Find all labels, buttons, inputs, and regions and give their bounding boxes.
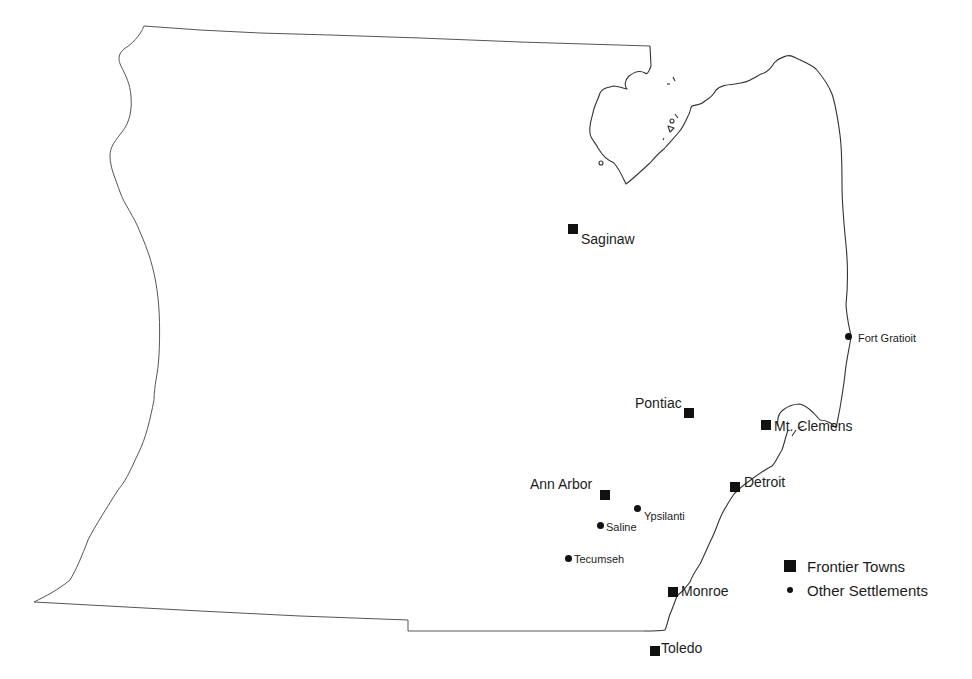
legend-item-frontier-towns: Frontier Towns xyxy=(782,556,905,576)
settlement-marker xyxy=(634,505,641,512)
town-label: Ann Arbor xyxy=(530,477,592,491)
settlement-marker xyxy=(565,555,572,562)
frontier-town-marker xyxy=(730,482,740,492)
legend-label: Other Settlements xyxy=(807,582,928,599)
frontier-town-marker xyxy=(600,490,610,500)
square-marker-icon xyxy=(784,560,796,572)
legend-item-other-settlements: Other Settlements xyxy=(782,580,928,600)
island-mark xyxy=(599,161,603,165)
frontier-town-marker xyxy=(568,224,578,234)
settlement-label: Fort Gratioit xyxy=(858,333,916,344)
island-mark xyxy=(668,126,674,132)
island-mark xyxy=(670,119,674,123)
territory-boundary xyxy=(34,26,650,631)
town-label: Monroe xyxy=(681,584,728,598)
legend-label: Frontier Towns xyxy=(807,558,905,575)
coastline xyxy=(590,46,851,631)
town-label: Pontiac xyxy=(635,396,682,410)
town-label: Toledo xyxy=(661,641,702,655)
town-label: Detroit xyxy=(744,475,785,489)
dot-marker-icon xyxy=(787,587,793,593)
island-mark xyxy=(673,77,675,81)
settlement-label: Tecumseh xyxy=(574,554,624,565)
town-label: Mt. Clemens xyxy=(774,419,853,433)
settlement-marker xyxy=(845,333,852,340)
settlement-label: Ypsilanti xyxy=(644,511,685,522)
map-legend: Frontier Towns Other Settlements xyxy=(782,556,962,606)
frontier-town-marker xyxy=(650,646,660,656)
frontier-town-marker xyxy=(668,587,678,597)
frontier-town-marker xyxy=(761,420,771,430)
settlement-label: Saline xyxy=(606,522,637,533)
settlement-marker xyxy=(597,522,604,529)
town-label: Saginaw xyxy=(581,232,635,246)
frontier-town-marker xyxy=(684,408,694,418)
